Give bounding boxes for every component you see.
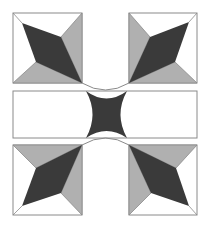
quilt-pattern-diagram [0, 0, 209, 228]
bottom-left-block [13, 145, 82, 215]
top-left-block [13, 13, 82, 83]
top-right-block [129, 13, 197, 83]
bottom-right-block [129, 145, 197, 215]
middle-band [13, 91, 197, 138]
